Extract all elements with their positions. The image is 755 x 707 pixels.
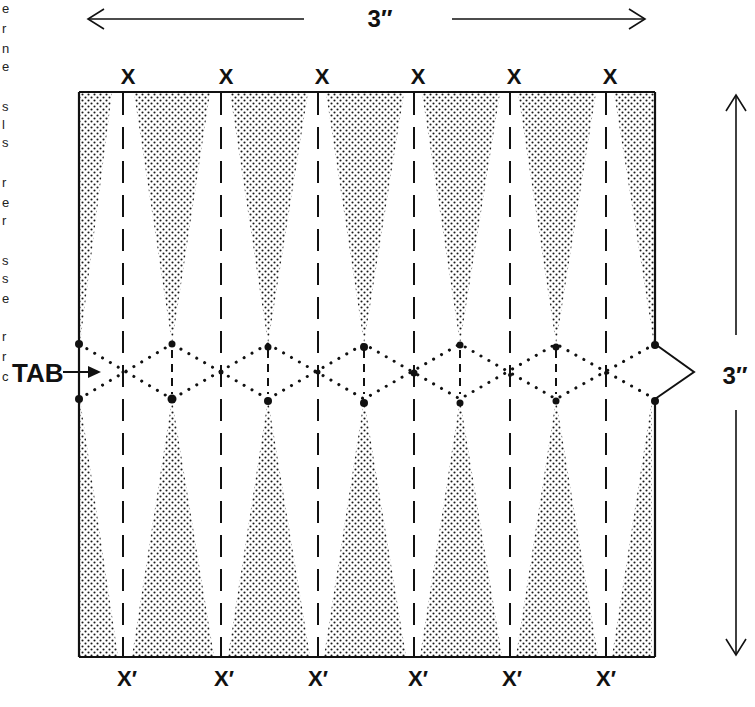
- bottom-fold-labels: X′ X′ X′ X′ X′ X′: [117, 666, 616, 691]
- bottom-label-1: X′: [117, 666, 137, 691]
- folding-pattern-diagram: 3″ 3″: [0, 0, 755, 707]
- vertex-connector-lines: [172, 350, 556, 394]
- tab-label: TAB: [12, 358, 64, 388]
- tab-arrow-icon: [63, 366, 101, 378]
- top-label-6: X: [603, 64, 618, 89]
- tab-flap: [655, 344, 694, 399]
- bottom-label-6: X′: [596, 666, 616, 691]
- top-label-2: X: [219, 64, 234, 89]
- diamond-fold-lines: [79, 344, 655, 399]
- top-label-3: X: [315, 64, 330, 89]
- bottom-label-4: X′: [408, 666, 428, 691]
- upper-stipple-regions: [80, 93, 654, 344]
- top-label-1: X: [121, 64, 136, 89]
- top-fold-labels: X X X X X X: [121, 64, 618, 89]
- top-label-5: X: [507, 64, 522, 89]
- lower-stipple-regions: [80, 399, 652, 656]
- bottom-label-5: X′: [502, 666, 522, 691]
- vertex-dots: [75, 340, 659, 407]
- height-dimension-label: 3″: [723, 362, 748, 389]
- bottom-label-3: X′: [308, 666, 328, 691]
- width-dimension-label: 3″: [368, 5, 393, 32]
- top-label-4: X: [411, 64, 426, 89]
- width-dimension-arrow: [88, 9, 645, 29]
- bottom-label-2: X′: [214, 666, 234, 691]
